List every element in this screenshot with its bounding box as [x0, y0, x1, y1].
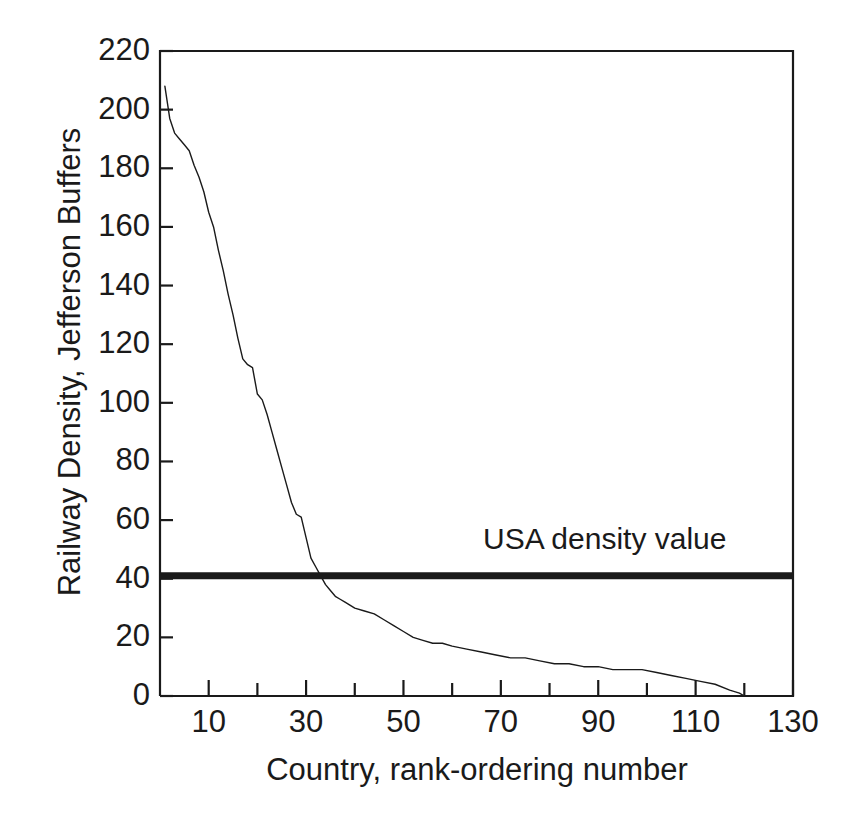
usa-density-annotation-label: USA density value: [483, 522, 726, 556]
x-axis-tick-labels: 1030507090110130: [0, 0, 863, 823]
x-tick-label: 130: [733, 706, 853, 737]
railway-density-chart: Railway Density, Jefferson Buffers Count…: [0, 0, 863, 823]
